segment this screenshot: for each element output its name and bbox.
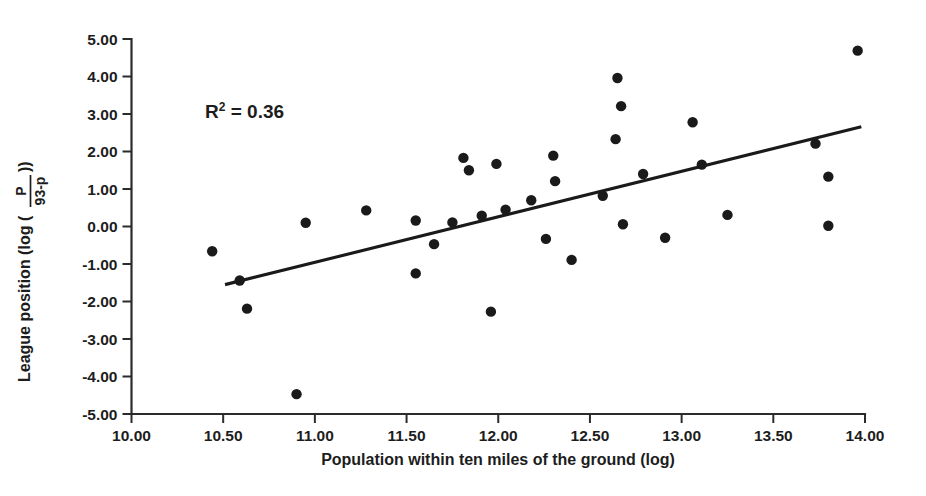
x-tick-label: 12.00 bbox=[479, 427, 518, 444]
data-point bbox=[291, 389, 301, 399]
plot-canvas: 5.004.003.002.001.000.00-1.00-2.00-3.00-… bbox=[0, 0, 926, 496]
data-point bbox=[616, 101, 626, 111]
x-tick-label: 11.00 bbox=[296, 427, 334, 444]
data-points-layer bbox=[207, 45, 863, 399]
data-point bbox=[612, 73, 622, 83]
y-tick-label: -1.00 bbox=[82, 256, 117, 273]
x-tick-label: 14.00 bbox=[846, 427, 885, 444]
data-point bbox=[566, 255, 576, 265]
x-tick-label: 10.50 bbox=[204, 427, 243, 444]
y-tick-label: 0.00 bbox=[87, 218, 117, 235]
y-tick-label: -5.00 bbox=[82, 406, 117, 423]
data-point bbox=[687, 117, 697, 127]
data-point bbox=[823, 221, 833, 231]
x-tick-label: 10.00 bbox=[112, 427, 151, 444]
y-axis-title: League position (log ( P 93-p )) bbox=[13, 161, 48, 382]
data-point bbox=[618, 219, 628, 229]
data-point bbox=[722, 210, 732, 220]
y-tick-label: -4.00 bbox=[82, 368, 117, 385]
y-tick-label: -3.00 bbox=[82, 331, 117, 348]
x-tick-label: 13.00 bbox=[662, 427, 701, 444]
data-point bbox=[638, 169, 648, 179]
y-axis-ticks: 5.004.003.002.001.000.00-1.00-2.00-3.00-… bbox=[82, 31, 131, 423]
data-point bbox=[242, 303, 252, 313]
data-point bbox=[207, 246, 217, 256]
data-point bbox=[852, 45, 862, 55]
data-point bbox=[660, 233, 670, 243]
x-tick-label: 12.50 bbox=[571, 427, 610, 444]
data-point bbox=[458, 153, 468, 163]
data-point bbox=[491, 159, 501, 169]
data-point bbox=[526, 195, 536, 205]
data-point bbox=[548, 150, 558, 160]
r-squared-annotation: R2 = 0.36 bbox=[205, 100, 284, 122]
y-tick-label: 4.00 bbox=[87, 68, 117, 85]
data-point bbox=[411, 215, 421, 225]
data-point bbox=[610, 134, 620, 144]
scatter-plot-figure: 5.004.003.002.001.000.00-1.00-2.00-3.00-… bbox=[0, 0, 926, 496]
y-tick-label: -2.00 bbox=[82, 293, 117, 310]
y-axis-title-suffix: )) bbox=[16, 161, 33, 172]
data-point bbox=[464, 165, 474, 175]
y-axis-title-prefix: League position (log ( bbox=[16, 215, 33, 382]
y-tick-label: 3.00 bbox=[87, 106, 117, 123]
x-tick-label: 13.50 bbox=[754, 427, 793, 444]
data-point bbox=[411, 268, 421, 278]
x-axis-title: Population within ten miles of the groun… bbox=[321, 451, 675, 468]
y-axis-title-numerator: P bbox=[13, 186, 29, 195]
data-point bbox=[301, 218, 311, 228]
y-tick-label: 2.00 bbox=[87, 143, 117, 160]
data-point bbox=[823, 171, 833, 181]
data-point bbox=[486, 306, 496, 316]
data-point bbox=[361, 205, 371, 215]
trendline bbox=[225, 127, 861, 285]
axes bbox=[132, 39, 866, 414]
x-tick-label: 11.50 bbox=[388, 427, 426, 444]
data-point bbox=[541, 234, 551, 244]
data-point bbox=[550, 176, 560, 186]
y-axis-title-fraction: P 93-p bbox=[13, 175, 48, 207]
x-axis-ticks: 10.0010.5011.0011.5012.0012.5013.0013.50… bbox=[112, 414, 884, 444]
y-tick-label: 1.00 bbox=[87, 181, 117, 198]
y-axis-title-denominator: 93-p bbox=[32, 177, 48, 206]
data-point bbox=[429, 239, 439, 249]
y-tick-label: 5.00 bbox=[87, 31, 117, 48]
